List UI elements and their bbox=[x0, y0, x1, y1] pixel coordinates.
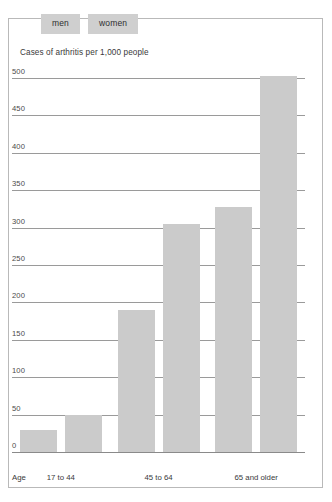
legend-label-women: women bbox=[99, 19, 127, 28]
legend-label-men: men bbox=[52, 19, 69, 28]
chart-screenshot: men women Cases of arthritis per 1,000 p… bbox=[0, 0, 332, 502]
y-tick-label-500: 500 bbox=[12, 67, 25, 76]
bar-women-65-and-older[interactable] bbox=[260, 76, 297, 452]
bar-women-17-to-44[interactable] bbox=[65, 415, 102, 452]
bar-women-45-to-64[interactable] bbox=[163, 224, 200, 452]
bar-men-65-and-older[interactable] bbox=[215, 207, 252, 452]
x-tick-label-65-and-older: 65 and older bbox=[234, 473, 277, 482]
chart-subtitle: Cases of arthritis per 1,000 people bbox=[20, 48, 149, 57]
legend-item-women[interactable]: women bbox=[88, 14, 138, 34]
plot-area: 050100150200250300350400450500 bbox=[12, 60, 305, 452]
chart-legend: men women bbox=[41, 14, 138, 34]
x-tick-label-17-to-44: 17 to 44 bbox=[47, 473, 75, 482]
bar-men-17-to-44[interactable] bbox=[20, 430, 57, 452]
bar-series-layer bbox=[12, 78, 305, 452]
legend-item-men[interactable]: men bbox=[41, 14, 80, 34]
x-axis: Age 17 to 4445 to 6465 and older bbox=[12, 472, 312, 486]
bar-men-45-to-64[interactable] bbox=[118, 310, 155, 452]
x-axis-title: Age bbox=[12, 473, 26, 482]
x-tick-label-45-to-64: 45 to 64 bbox=[144, 473, 172, 482]
gridline-0 bbox=[12, 452, 305, 453]
